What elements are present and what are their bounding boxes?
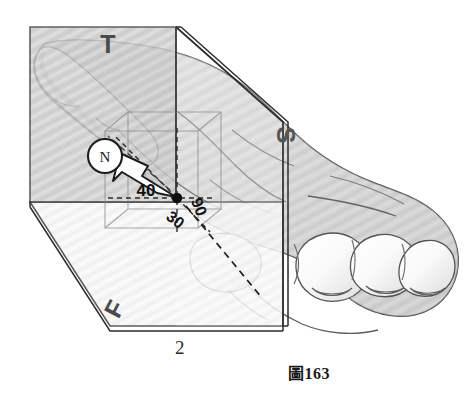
sagittal-plane-surface (176, 27, 283, 326)
figure-container: N T S F 40 90 30 2 圖163 (0, 0, 467, 402)
sagittal-plane-label: S (272, 127, 300, 144)
compass-badge: N (88, 139, 122, 173)
transverse-plane-label: T (100, 30, 115, 58)
lesser-toes (296, 233, 455, 301)
pivot-point (172, 193, 182, 203)
plane-number-label: 2 (175, 337, 185, 359)
sagittal-plane (176, 27, 288, 326)
anatomical-plane-diagram: N T S F 40 90 30 (0, 0, 467, 402)
compass-label: N (100, 149, 111, 165)
figure-caption: 圖163 (288, 360, 330, 384)
angle-label-40: 40 (137, 181, 156, 200)
